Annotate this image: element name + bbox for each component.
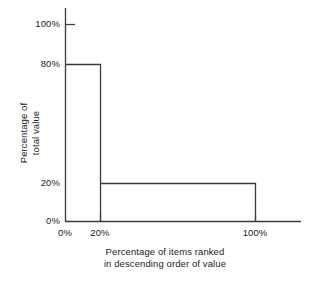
x-tick-label-20: 20% xyxy=(85,228,115,238)
bar-0-20-percent xyxy=(66,65,101,222)
x-tick-label-100: 100% xyxy=(238,228,272,238)
y-tick-label-80: 80% xyxy=(41,59,60,69)
y-axis-title: Percentage of total value xyxy=(6,78,52,188)
x-axis-title-line-1: Percentage of items ranked xyxy=(52,246,278,258)
y-tick-label-0: 0% xyxy=(46,216,60,226)
x-tick-label-0: 0% xyxy=(50,228,80,238)
y-axis-title-line-2: total value xyxy=(29,103,41,163)
pareto-chart: 100% 80% 20% 0% 0% 20% 100% Percentage o… xyxy=(0,0,320,282)
y-axis-title-line-1: Percentage of xyxy=(18,103,30,163)
x-axis-title: Percentage of items ranked in descending… xyxy=(52,246,278,270)
y-axis-title-text: Percentage of total value xyxy=(18,103,41,163)
y-tick-label-100: 100% xyxy=(35,19,60,29)
x-axis-title-line-2: in descending order of value xyxy=(52,258,278,270)
bar-20-100-percent xyxy=(101,184,256,222)
